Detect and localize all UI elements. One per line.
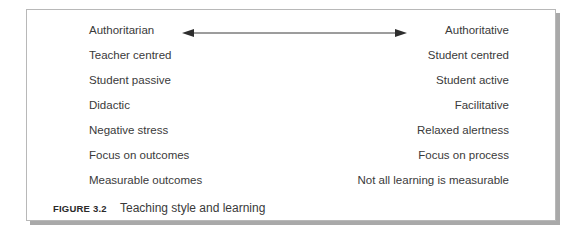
figure-caption: FIGURE 3.2 Teaching style and learning <box>53 201 265 216</box>
right-label: Relaxed alertness <box>417 122 509 138</box>
figure-title: Teaching style and learning <box>120 201 265 215</box>
row-didactic-facilitative: Didactic Facilitative <box>27 97 555 113</box>
right-label: Focus on process <box>418 147 509 163</box>
right-label: Authoritative <box>445 22 509 38</box>
right-label: Facilitative <box>455 97 509 113</box>
row-teacher-student-centred: Teacher centred Student centred <box>27 47 555 63</box>
row-outcomes-process: Focus on outcomes Focus on process <box>27 147 555 163</box>
left-label: Focus on outcomes <box>89 147 189 163</box>
double-arrow-icon <box>182 29 407 37</box>
row-authoritarian-authoritative: Authoritarian Authoritative <box>27 22 555 38</box>
left-label: Student passive <box>89 72 171 88</box>
left-label: Authoritarian <box>89 22 154 38</box>
right-label: Not all learning is measurable <box>358 172 510 188</box>
figure-number: FIGURE 3.2 <box>53 203 107 214</box>
row-measurable: Measurable outcomes Not all learning is … <box>27 172 555 188</box>
left-label: Measurable outcomes <box>89 172 202 188</box>
figure-box: Authoritarian Authoritative Teacher cent… <box>26 9 556 221</box>
right-label: Student active <box>436 72 509 88</box>
row-stress-alertness: Negative stress Relaxed alertness <box>27 122 555 138</box>
right-label: Student centred <box>428 47 509 63</box>
left-label: Didactic <box>89 97 130 113</box>
row-passive-active: Student passive Student active <box>27 72 555 88</box>
left-label: Teacher centred <box>89 47 171 63</box>
left-label: Negative stress <box>89 122 168 138</box>
